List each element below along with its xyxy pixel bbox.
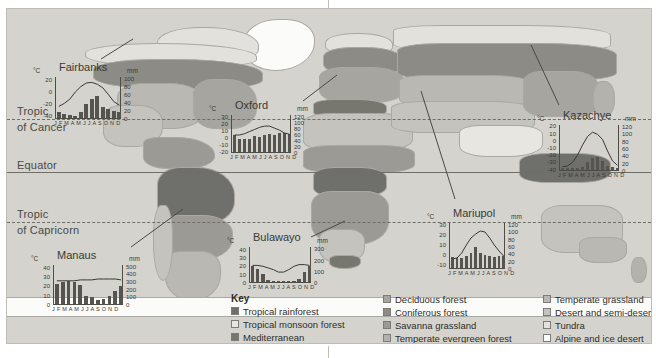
tick-label: -10 <box>219 142 228 148</box>
axis-unit-celsius: °C <box>31 255 38 262</box>
precipitation-axis-ticks: 120100806040200 <box>294 115 317 153</box>
tick-label: 0 <box>126 302 129 308</box>
key-item: Temperate evergreen forest <box>383 332 541 344</box>
climate-graph-plot <box>55 77 121 119</box>
axis-unit-mm: mm <box>625 115 636 122</box>
climate-graph-title: Bulawayo <box>253 231 301 243</box>
climate-graph-title: Oxford <box>235 99 268 111</box>
page-margin-dot-top <box>328 0 329 8</box>
precipitation-axis-ticks: 3002001000 <box>314 247 337 283</box>
tick-label: 80 <box>622 139 629 145</box>
key-label: Temperate evergreen forest <box>395 333 512 344</box>
tick-label: -20 <box>219 149 228 155</box>
tick-label: 100 <box>124 76 134 82</box>
tick-label: 200 <box>126 287 136 293</box>
temperature-curve <box>56 77 122 119</box>
key-label: Tundra <box>555 320 585 331</box>
tick-label: 120 <box>622 124 632 130</box>
key-item: Desert and semi-desert <box>543 306 652 318</box>
climate-graph-title: Kazachye <box>563 109 611 121</box>
key-title: Key <box>231 293 249 304</box>
map-key: Key Tropical rainforestTropical monsoon … <box>229 293 652 344</box>
world-biome-map: Tropic of Cancer Equator Tropic of Capri… <box>6 8 652 344</box>
key-swatch <box>383 321 391 329</box>
month-axis-labels: J F M A M J J A S O N D <box>52 306 122 312</box>
leader-mariupol <box>421 91 455 199</box>
axis-unit-mm: mm <box>511 213 522 220</box>
key-label: Tropical rainforest <box>243 306 319 317</box>
month-axis-labels: J F M A M J J A S O N D <box>230 154 290 160</box>
tick-label: 500 <box>126 264 136 270</box>
tick-label: 20 <box>622 161 629 167</box>
key-item: Temperate grassland <box>543 293 652 305</box>
tick-label: 20 <box>294 144 301 150</box>
temperature-axis-ticks: 403020100 <box>29 265 50 305</box>
tick-label: 0 <box>124 116 127 122</box>
tick-label: 0 <box>243 280 246 286</box>
tick-label: 10 <box>549 131 556 137</box>
key-label: Savanna grassland <box>395 320 476 331</box>
tick-label: 0 <box>49 89 52 95</box>
tick-label: 10 <box>221 128 228 134</box>
key-column-3: Temperate grasslandDesert and semi-deser… <box>543 293 652 344</box>
temperature-axis-ticks: 403020100 <box>225 247 246 283</box>
month-axis-labels: J F M A M J J A S O N D <box>54 120 120 126</box>
key-column-1: Tropical rainforestTropical monsoon fore… <box>231 305 381 344</box>
tick-label: -20 <box>43 101 52 107</box>
axis-unit-celsius: °C <box>537 115 544 122</box>
tick-label: 60 <box>124 92 131 98</box>
precipitation-axis-ticks: 120100806040200 <box>508 223 531 269</box>
climate-graph-bulawayo: Bulawayo°Cmm4030201003002001000J F M A M… <box>225 231 337 293</box>
month-axis-labels: J F M A M J J A S O N D <box>448 270 504 276</box>
temperature-curve <box>54 265 124 305</box>
leader-oxford <box>303 75 337 101</box>
tick-label: 60 <box>508 244 515 250</box>
key-column-2: Deciduous forestConiferous forestSavanna… <box>383 293 541 344</box>
tick-label: 20 <box>508 259 515 265</box>
key-item: Tundra <box>543 319 652 331</box>
temperature-curve <box>450 223 506 269</box>
key-label: Deciduous forest <box>395 294 466 305</box>
axis-unit-mm: mm <box>127 67 138 74</box>
tick-label: 20 <box>43 283 50 289</box>
tick-label: 0 <box>443 252 446 258</box>
key-label: Mediterranean <box>243 332 304 343</box>
temperature-axis-ticks: 20100-10-20-30-40 <box>535 125 556 171</box>
key-swatch <box>383 334 391 342</box>
tick-label: 40 <box>239 247 246 253</box>
key-label: Coniferous forest <box>395 307 467 318</box>
tick-label: -10 <box>547 145 556 151</box>
tick-label: 100 <box>314 269 324 275</box>
tick-label: 30 <box>43 274 50 280</box>
tick-label: 100 <box>622 131 632 137</box>
key-item: Mediterranean <box>231 331 381 343</box>
axis-unit-mm: mm <box>297 105 308 112</box>
tick-label: 40 <box>124 100 131 106</box>
tick-label: 40 <box>508 251 515 257</box>
key-label: Temperate grassland <box>555 294 644 305</box>
tick-label: 20 <box>549 123 556 129</box>
precipitation-axis-ticks: 100806040200 <box>124 77 147 119</box>
tick-label: 60 <box>622 146 629 152</box>
climate-graph-plot <box>231 115 291 153</box>
tick-label: 120 <box>508 222 518 228</box>
climate-graph-mariupol: Mariupol°Cmm3020100-10120100806040200J F… <box>425 207 531 279</box>
tick-label: 20 <box>124 108 131 114</box>
tick-label: 0 <box>47 302 50 308</box>
tick-label: -40 <box>43 113 52 119</box>
key-item: Savanna grassland <box>383 319 541 331</box>
key-label: Tropical monsoon forest <box>243 319 345 330</box>
leader-fairbanks <box>101 39 133 59</box>
tick-label: 20 <box>45 77 52 83</box>
climate-graph-title: Mariupol <box>453 207 495 219</box>
precipitation-axis-ticks: 5004003002001000 <box>126 265 149 305</box>
tick-label: 20 <box>439 232 446 238</box>
key-item: Deciduous forest <box>383 293 541 305</box>
climate-graph-title: Manaus <box>57 249 96 261</box>
precipitation-axis-ticks: 120100806040200 <box>622 125 645 171</box>
tick-label: 300 <box>126 279 136 285</box>
tick-label: 10 <box>439 242 446 248</box>
tick-label: 30 <box>239 255 246 261</box>
tick-label: 10 <box>239 272 246 278</box>
climate-graph-plot <box>559 125 619 171</box>
